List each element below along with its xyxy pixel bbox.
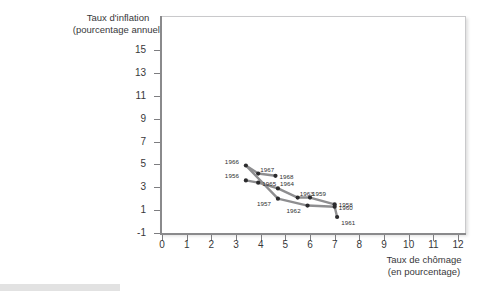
data-point-1961 xyxy=(335,215,339,219)
point-label-1961: 1961 xyxy=(341,219,355,226)
phillips-curve-chart: Taux d'inflation (pourcentage annuel) Ta… xyxy=(0,0,482,295)
point-label-1962: 1962 xyxy=(287,207,301,214)
data-point-1957 xyxy=(276,197,280,201)
point-label-1965: 1965 xyxy=(262,180,276,187)
point-label-1960: 1960 xyxy=(339,204,353,211)
data-point-1968 xyxy=(273,174,277,178)
data-point-1960 xyxy=(333,205,337,209)
point-label-1959: 1959 xyxy=(312,190,326,197)
data-layer xyxy=(0,0,482,295)
data-point-1956 xyxy=(244,178,248,182)
data-point-1966 xyxy=(244,163,248,167)
point-label-1957: 1957 xyxy=(257,200,271,207)
point-label-1956: 1956 xyxy=(225,172,239,179)
point-label-1968: 1968 xyxy=(279,173,293,180)
bottom-decorative-bar xyxy=(0,284,120,291)
point-label-1967: 1967 xyxy=(260,166,274,173)
point-label-1964: 1964 xyxy=(280,180,294,187)
data-point-1962 xyxy=(305,203,309,207)
point-label-1966: 1966 xyxy=(225,158,239,165)
data-point-1965 xyxy=(256,181,260,185)
